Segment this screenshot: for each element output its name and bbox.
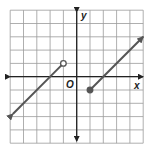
plot-lines <box>13 37 143 114</box>
open-endpoint <box>61 61 67 67</box>
axes: y x O <box>10 10 143 141</box>
y-axis-label: y <box>80 10 87 21</box>
function-line <box>13 63 64 114</box>
coordinate-plane: y x O <box>0 0 150 150</box>
closed-endpoint <box>87 87 93 93</box>
x-axis-label: x <box>133 80 140 91</box>
origin-label: O <box>66 79 74 90</box>
